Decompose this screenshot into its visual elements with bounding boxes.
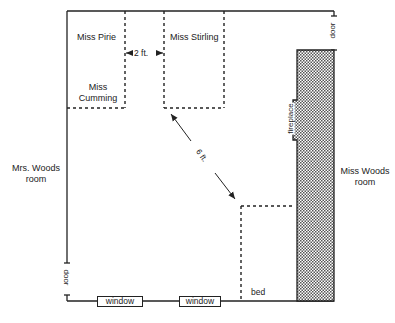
window-2: window	[179, 296, 221, 307]
label-mrs-woods-line2: room	[8, 174, 64, 185]
window-1: window	[97, 296, 143, 307]
partitions	[67, 11, 293, 301]
label-miss-woods-room: Miss Woods room	[336, 166, 394, 188]
label-miss-cumming: Miss Cumming	[76, 82, 120, 104]
label-miss-pirie: Miss Pirie	[77, 32, 116, 43]
label-miss-woods-line1: Miss Woods	[336, 166, 394, 177]
fireplace-block	[293, 50, 334, 301]
label-mrs-woods-room: Mrs. Woods room	[8, 163, 64, 185]
label-gap-2ft: 2 ft.	[134, 48, 148, 59]
label-miss-stirling: Miss Stirling	[170, 32, 219, 43]
label-miss-cumming-line2: Cumming	[76, 93, 120, 104]
label-miss-cumming-line1: Miss	[76, 82, 120, 93]
label-bed: bed	[251, 287, 265, 298]
label-door-bottom-left: door	[62, 269, 71, 285]
label-mrs-woods-line1: Mrs. Woods	[8, 163, 64, 174]
label-fireplace: fireplace	[286, 102, 295, 134]
label-miss-woods-line2: room	[336, 177, 394, 188]
floor-plan-drawing	[0, 0, 395, 323]
label-door-top-right: door	[328, 22, 337, 38]
